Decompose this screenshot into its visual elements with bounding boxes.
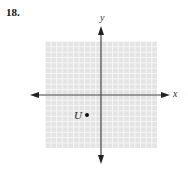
point-u-dot [85, 113, 89, 117]
point-u-label: U [74, 109, 82, 121]
y-axis-label: y [100, 12, 104, 23]
x-axis-left-arrow-icon [30, 92, 39, 98]
y-axis-down-arrow-icon [98, 155, 104, 164]
axes [0, 0, 188, 173]
x-axis-right-arrow-icon [161, 92, 170, 98]
x-axis-label: x [173, 88, 177, 99]
x-axis [30, 92, 170, 98]
y-axis-up-arrow-icon [98, 26, 104, 35]
